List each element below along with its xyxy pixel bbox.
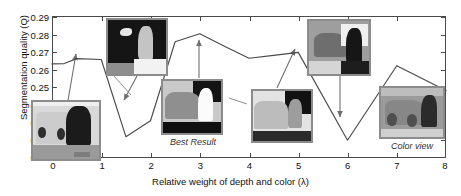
color-view-thumbnail[interactable] [379,86,445,139]
y-tick-right [441,35,445,36]
best-result-caption: Best Result [152,137,234,147]
x-tick-bottom [348,153,349,157]
x-tick-label: 7 [394,160,399,171]
seg-region-ground [163,122,221,133]
y-tick-right [441,52,445,53]
seg-region-shadow [74,152,90,157]
y-tick-label: 0.27 [31,47,50,58]
thumbnail-image [108,20,166,74]
x-tick-top [200,17,201,21]
segmentation-thumbnail-lambda-1-5[interactable] [106,18,168,76]
thumbnail-image [381,88,443,137]
x-tick-label: 8 [442,160,447,171]
y-tick-label: 0.29 [31,12,50,23]
thumbnail-image [33,102,99,159]
x-tick-top [397,17,398,21]
segmentation-thumbnail-lambda-0-5[interactable] [31,100,101,161]
seg-region-wheel-right [407,114,417,127]
y-tick-left [53,17,57,18]
thumbnail-image [163,81,221,133]
seg-region-tree [198,88,213,120]
y-tick-label: 0.28 [31,29,50,40]
y-tick-label: 0.25 [31,82,50,93]
seg-region-sky [381,88,443,96]
x-tick-label: 3 [198,160,203,171]
seg-region-tree [421,95,437,127]
color-view-caption: Color view [370,141,454,151]
y-tick-right [441,70,445,71]
seg-region-ground [381,129,443,137]
y-axis-title: Segmentation quality (Q) [18,0,29,143]
seg-region-ground-dark [341,61,369,74]
x-tick-top [102,17,103,21]
x-tick-label: 1 [99,160,104,171]
seg-region-highlight [120,28,133,37]
seg-region-bright-patch [134,59,166,74]
x-tick-label: 0 [50,160,55,171]
figure-root: Segmentation quality (Q) [0,0,461,196]
seg-region-tree [138,26,153,59]
y-tick-left [53,52,57,53]
seg-region-wheel-left [38,127,46,138]
x-tick-bottom [151,153,152,157]
x-tick-top [299,17,300,21]
y-tick-label: 0.26 [31,64,50,75]
segmentation-thumbnail-lambda-3[interactable] [161,79,223,135]
x-tick-bottom [102,153,103,157]
seg-region-wheel-right [57,128,65,139]
x-tick-label: 5 [296,160,301,171]
thumbnail-image [309,21,369,74]
x-tick-bottom [250,153,251,157]
thumbnail-image [253,91,311,141]
seg-region-tree [66,106,91,145]
y-tick-right [441,17,445,18]
segmentation-thumbnail-lambda-6[interactable] [307,19,371,76]
x-tick-bottom [299,153,300,157]
x-tick-bottom [397,153,398,157]
x-tick-label: 4 [247,160,252,171]
seg-region-object-left [165,92,200,119]
y-tick-left [53,35,57,36]
segmentation-thumbnail-lambda-5[interactable] [251,89,313,143]
seg-region-ground [309,61,343,74]
y-tick-left [53,87,57,88]
x-tick-label: 6 [345,160,350,171]
seg-region-ground [253,131,311,141]
seg-region-object-left [254,101,288,129]
x-axis-title: Relative weight of depth and color (λ) [0,176,461,187]
seg-region-sky [33,102,99,106]
x-tick-label: 2 [149,160,154,171]
seg-region-tree [346,28,362,62]
x-tick-top [250,17,251,21]
x-tick-bottom [200,153,201,157]
y-tick-left [53,70,57,71]
seg-region-tree [288,99,302,128]
